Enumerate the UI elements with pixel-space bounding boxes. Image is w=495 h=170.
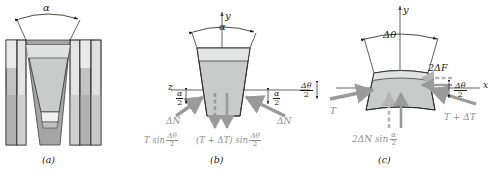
tension-right-num: Δθ (249, 133, 260, 140)
tension-right-prefix: (T + ΔT) sin (196, 135, 248, 145)
label-half-angle-left-b: α 2 (176, 90, 183, 107)
label-friction-force-c: 2ΔF (428, 63, 448, 73)
figure-root: α (a) y z α α 2 α 2 ΔN ΔN T sin Δθ 2 (T … (0, 0, 495, 170)
label-tension-component-left: T sin Δθ 2 (144, 133, 178, 148)
tension-left-num: Δθ (166, 133, 177, 140)
label-delta-N-left: ΔN (166, 117, 180, 126)
half-angle-left-den: 2 (176, 98, 183, 107)
tension-right-den: 2 (249, 140, 260, 148)
panel-a-graphics (6, 14, 101, 145)
label-tension-component-right: (T + ΔT) sin Δθ 2 (196, 133, 261, 148)
angle-delta-theta-c (364, 34, 438, 73)
half-angle-right-den: 2 (273, 98, 280, 107)
panel-c-graphics (317, 6, 480, 128)
sheave-left (6, 40, 26, 145)
tension-arrow-left-c (330, 90, 373, 99)
angle-alpha-a (17, 14, 80, 40)
half-wrap-left-den: 2 (300, 90, 313, 99)
sheave-right (70, 40, 101, 145)
half-angle-right-num: α (273, 90, 280, 98)
label-y-axis-b: y (225, 11, 231, 21)
label-x-axis-c: x (483, 81, 488, 90)
half-wrap-right-den: 2 (454, 90, 467, 99)
half-wrap-left-num: Δθ (300, 82, 313, 90)
half-angle-left-num: α (176, 90, 183, 98)
caption-a: (a) (42, 154, 55, 165)
label-tension-T-c: T (330, 107, 336, 116)
label-half-wrap-left-c: Δθ 2 (300, 82, 313, 99)
label-z-axis-b: z (168, 83, 173, 92)
caption-c: (c) (378, 154, 391, 165)
panel-b-graphics (171, 12, 310, 128)
tension-left-prefix: T sin (144, 135, 165, 145)
label-normal-resultant-c: 2ΔN sin α 2 (352, 132, 397, 147)
normal-resultant-num: α (390, 132, 397, 139)
normal-resultant-prefix: 2ΔN sin (352, 134, 388, 144)
normal-resultant-den: 2 (390, 139, 397, 147)
label-delta-theta-c: Δθ (383, 30, 396, 40)
half-wrap-right-num: Δθ (454, 82, 467, 90)
label-half-angle-right-b: α 2 (273, 90, 280, 107)
label-tension-T-plus-dT-c: T + ΔT (444, 113, 476, 122)
tension-left-den: 2 (166, 140, 177, 148)
label-y-axis-c: y (403, 5, 409, 15)
caption-b: (b) (210, 154, 224, 165)
label-delta-N-right: ΔN (277, 117, 291, 126)
label-alpha-a: α (43, 3, 50, 13)
label-half-wrap-right-c: Δθ 2 (454, 82, 467, 99)
label-alpha-b: α (219, 22, 226, 32)
